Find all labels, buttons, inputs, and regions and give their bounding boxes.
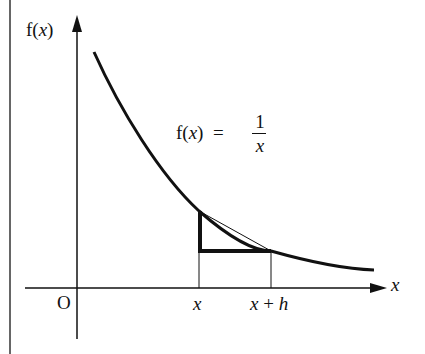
tick-label-x-plus-h: x + h [250, 294, 288, 313]
x-axis-arrow-icon [370, 283, 387, 293]
y-axis-label: f(x) [26, 20, 53, 39]
y-axis-arrow-icon [72, 15, 82, 32]
fraction-numerator: 1 [253, 112, 267, 131]
origin-label: O [57, 293, 71, 312]
curve-one-over-x [94, 52, 374, 270]
function-label: f(x) = [176, 123, 224, 142]
fraction-denominator: x [253, 136, 267, 155]
secant-line [199, 211, 271, 251]
fraction-bar [252, 133, 266, 134]
tick-label-x: x [193, 294, 201, 313]
x-axis-label: x [391, 275, 399, 294]
